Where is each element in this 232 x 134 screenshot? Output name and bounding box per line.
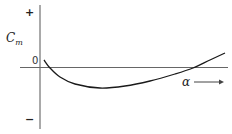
alpha-arrow-icon: [194, 80, 224, 85]
cm-curve: [44, 53, 225, 88]
y-axis-label: Cm: [6, 32, 23, 47]
cm-main: C: [6, 31, 15, 45]
x-axis-label: α: [182, 76, 190, 88]
positive-marker: +: [25, 7, 34, 18]
origin-label: 0: [32, 56, 38, 66]
plot-area: [0, 0, 232, 134]
pitching-moment-chart: + − Cm 0 α: [0, 0, 232, 134]
negative-marker: −: [25, 114, 34, 125]
cm-subscript: m: [15, 38, 23, 47]
